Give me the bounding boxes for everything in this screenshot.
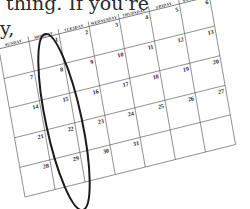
day-number[interactable]: 5: [175, 6, 179, 13]
day-number[interactable]: 17: [122, 81, 129, 88]
weekday-label-wednesday: WEDNESDAY: [90, 14, 117, 26]
day-number[interactable]: 8: [60, 66, 64, 73]
column-line: [58, 29, 85, 182]
day-number[interactable]: 28: [42, 162, 49, 169]
day-number[interactable]: 21: [37, 133, 44, 140]
day-number[interactable]: 24: [127, 110, 134, 117]
day-number[interactable]: 22: [67, 125, 74, 132]
column-line: [148, 7, 175, 160]
day-number[interactable]: 27: [218, 88, 225, 95]
weekday-label-thursday: THURSDAY: [122, 7, 146, 18]
day-number[interactable]: 2: [85, 29, 89, 36]
day-number[interactable]: 14: [32, 103, 39, 110]
day-number[interactable]: 6: [205, 0, 209, 6]
column-line: [0, 44, 25, 197]
day-number[interactable]: 10: [117, 51, 124, 58]
calendar-illustration: SUNDAYMONDAYTUESDAYWEDNESDAYTHURSDAYFRID…: [0, 0, 250, 209]
day-number[interactable]: 18: [152, 73, 159, 80]
row-line: [15, 85, 226, 137]
day-number[interactable]: 29: [73, 155, 80, 162]
day-number[interactable]: 11: [147, 44, 154, 51]
weekday-label-friday: FRIDAY: [155, 1, 172, 10]
day-number[interactable]: 12: [177, 36, 184, 43]
day-number[interactable]: 19: [182, 66, 189, 73]
day-number[interactable]: 30: [103, 147, 110, 154]
column-line: [118, 14, 145, 167]
day-number[interactable]: 16: [92, 88, 99, 95]
day-number[interactable]: 9: [90, 59, 94, 66]
weekday-label-tuesday: TUESDAY: [63, 23, 83, 33]
day-number[interactable]: 3: [115, 21, 119, 28]
column-line: [209, 0, 236, 145]
day-number[interactable]: 26: [188, 95, 195, 102]
calendar-grid: SUNDAYMONDAYTUESDAYWEDNESDAYTHURSDAYFRID…: [0, 0, 236, 197]
column-line: [178, 0, 205, 152]
column-line: [28, 37, 55, 190]
day-number[interactable]: 15: [62, 96, 69, 103]
row-line: [20, 115, 231, 167]
day-number[interactable]: 13: [207, 29, 214, 36]
row-line: [25, 145, 236, 197]
day-number[interactable]: 31: [133, 140, 140, 147]
day-number[interactable]: 25: [158, 103, 165, 110]
day-number[interactable]: 4: [145, 14, 149, 21]
day-number[interactable]: 7: [30, 74, 34, 81]
day-number[interactable]: 20: [212, 58, 219, 65]
column-line: [88, 22, 115, 175]
day-number[interactable]: 23: [97, 118, 104, 125]
weekday-label-sunday: SUNDAY: [5, 38, 23, 47]
